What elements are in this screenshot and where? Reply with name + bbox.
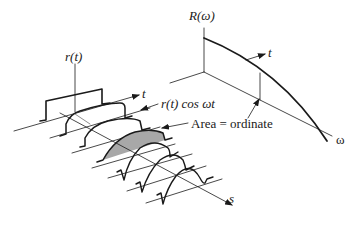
product-label: r(t) cos ωt (161, 97, 215, 110)
product-pointer (141, 104, 158, 110)
area-pointer (162, 123, 188, 128)
slice-6 (146, 168, 222, 204)
left-panel (14, 64, 232, 205)
t-pointer-label: t (268, 46, 272, 59)
slice-0 (14, 89, 139, 131)
R-axis-label: R(ω) (189, 9, 215, 22)
slice-5 (127, 155, 206, 192)
r-axis-label: r(t) (65, 50, 82, 63)
t-axis-label: t (142, 87, 146, 100)
area-annotation: Area = ordinate (191, 117, 273, 130)
t-depth-axis (170, 72, 204, 83)
s-axis-label: s (229, 192, 234, 205)
omega-axis-label: ω (336, 133, 345, 146)
fourier-transform-diagram (0, 0, 354, 225)
t-pointer (246, 54, 265, 60)
